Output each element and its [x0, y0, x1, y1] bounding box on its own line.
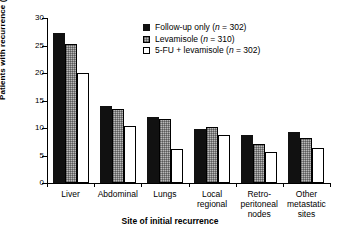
- bar: [265, 152, 277, 183]
- y-tick-label: 20: [35, 69, 44, 77]
- bar: [112, 109, 124, 183]
- y-tick-label: 30: [35, 14, 44, 22]
- legend-item: 5-FU + levamisole (n = 302): [143, 45, 260, 57]
- bar: [241, 135, 253, 183]
- y-axis-title: Patients with recurrence (%): [0, 0, 7, 100]
- x-category-label: Retro- peritoneal nodes: [236, 189, 283, 219]
- bar: [124, 126, 136, 183]
- bar: [218, 135, 230, 183]
- bar-group-bars: [47, 18, 94, 183]
- legend-swatch: [143, 24, 150, 31]
- legend-label: 5-FU + levamisole (n = 302): [155, 45, 260, 57]
- y-tick-label: 5: [40, 152, 44, 160]
- legend-label: Follow-up only (n = 302): [155, 22, 246, 34]
- bar-group-bars: [94, 18, 141, 183]
- bar: [147, 117, 159, 183]
- bar: [300, 138, 312, 183]
- bar-group: [283, 18, 330, 183]
- bar: [65, 44, 77, 183]
- legend-label: Levamisole (n = 310): [155, 34, 235, 46]
- bar: [77, 73, 89, 183]
- bar-chart-figure: Patients with recurrence (%) 05101520253…: [0, 0, 340, 235]
- bar-group: [94, 18, 141, 183]
- bar: [312, 148, 324, 183]
- x-tick-mark: [236, 183, 237, 187]
- x-tick-mark: [94, 183, 95, 187]
- legend: Follow-up only (n = 302)Levamisole (n = …: [143, 22, 260, 57]
- legend-swatch: [143, 47, 150, 54]
- y-tick-label: 10: [35, 124, 44, 132]
- y-tick-label: 0: [40, 179, 44, 187]
- legend-item: Follow-up only (n = 302): [143, 22, 260, 34]
- x-category-label: Abdominal: [94, 189, 141, 199]
- bar-group-bars: [283, 18, 330, 183]
- y-tick-label: 25: [35, 42, 44, 50]
- legend-item: Levamisole (n = 310): [143, 34, 260, 46]
- x-axis-title: Site of initial recurrence: [0, 216, 340, 226]
- x-category-label: Liver: [47, 189, 94, 199]
- bar: [171, 149, 183, 183]
- x-tick-mark: [189, 183, 190, 187]
- x-category-label: Lungs: [141, 189, 188, 199]
- x-tick-mark: [330, 183, 331, 187]
- bar-group: [47, 18, 94, 183]
- x-category-label: Local regional: [189, 189, 236, 209]
- legend-swatch: [143, 36, 150, 43]
- y-tick-label: 15: [35, 97, 44, 105]
- bar: [159, 119, 171, 183]
- bar: [53, 33, 65, 183]
- bar: [194, 129, 206, 183]
- x-tick-mark: [283, 183, 284, 187]
- bar: [288, 132, 300, 183]
- x-tick-mark: [47, 183, 48, 187]
- bar: [100, 106, 112, 183]
- bar: [206, 127, 218, 183]
- x-category-label: Other metastatic sites: [283, 189, 330, 219]
- bar: [253, 144, 265, 183]
- x-tick-mark: [141, 183, 142, 187]
